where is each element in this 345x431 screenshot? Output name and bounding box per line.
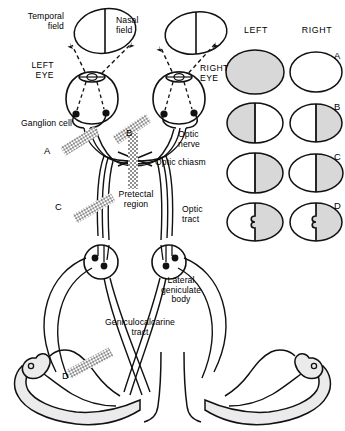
occipital-cortex-right: [205, 350, 330, 425]
legend-row-letter-D: D: [334, 200, 341, 211]
temporal-field-label: Temporal field: [2, 12, 64, 31]
legend-oval-B-left: [227, 103, 283, 143]
legend-oval-C-left: [227, 153, 284, 193]
left-eye-label: LEFT EYE: [8, 61, 54, 80]
legend-row-letter-C: C: [334, 151, 341, 162]
lesion-letter-B: B: [126, 127, 132, 138]
optic-nerve-label: Optic nerve: [178, 130, 222, 149]
optic-tract-label: Optic tract: [182, 205, 226, 224]
visual-pathway-figure: Temporal field Nasal field LEFT EYE RIGH…: [0, 0, 345, 431]
right-eye-label: RIGHT EYE: [200, 64, 246, 83]
calcarine-fissure: [144, 352, 201, 422]
legend-row-letter-B: B: [334, 101, 340, 112]
lateral-geniculate-body-right: [152, 245, 186, 279]
geniculocalcarine-tract-label: Geniculocalcarine tract: [86, 318, 194, 337]
lesion-bar-B: [128, 133, 138, 189]
lesion-letter-C: C: [55, 201, 62, 212]
legend-header-right: RIGHT: [289, 25, 345, 35]
lateral-geniculate-body-left: [84, 245, 118, 279]
lateral-geniculate-body-label: Lateral geniculate body: [150, 276, 212, 305]
ganglion-cell-label: Ganglion cell: [0, 119, 72, 129]
nasal-field-label: Nasal field: [116, 16, 164, 35]
lesion-letter-D: D: [62, 370, 69, 381]
legend-row-letter-A: A: [334, 50, 340, 61]
legend-oval-D-left: [227, 203, 284, 241]
optic-chiasm-label: Optic chiasm: [155, 158, 229, 168]
visual-field-right: [162, 8, 229, 58]
occipital-cortex-left: [15, 350, 140, 425]
right-eye: [153, 72, 205, 128]
legend-header-left: LEFT: [228, 25, 284, 35]
left-eye: [66, 72, 118, 128]
lesion-letter-A: A: [44, 145, 50, 156]
pretectal-region-label: Pretectal region: [108, 190, 164, 209]
